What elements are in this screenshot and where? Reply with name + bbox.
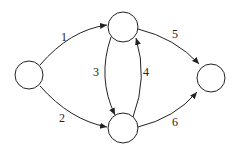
edge-label-3: 3 [93, 65, 99, 79]
node-top [108, 12, 138, 42]
edge-3 [105, 37, 115, 115]
edge-label-2: 2 [59, 111, 65, 125]
edge-label-4: 4 [143, 65, 149, 79]
edge-2 [40, 86, 107, 127]
edge-4 [133, 38, 141, 117]
edge-5 [138, 29, 199, 64]
edge-1 [40, 25, 107, 65]
flow-network-diagram: 1 2 3 4 5 6 [0, 0, 237, 151]
edge-label-6: 6 [172, 115, 178, 129]
edge-label-5: 5 [172, 27, 178, 41]
node-bottom [108, 113, 138, 143]
edge-6 [138, 92, 197, 127]
node-source [15, 61, 43, 89]
edge-label-1: 1 [61, 30, 67, 44]
node-sink [197, 64, 225, 92]
